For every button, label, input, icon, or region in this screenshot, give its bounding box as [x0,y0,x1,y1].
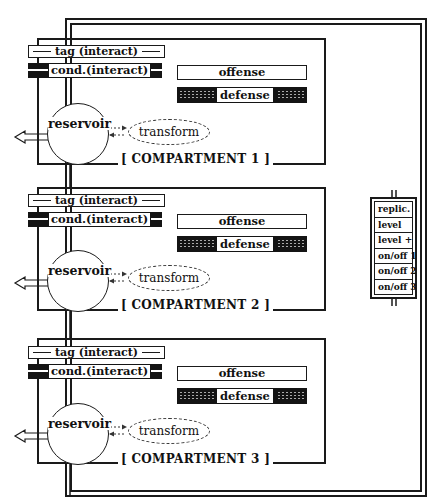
defense-label: defense [217,389,273,403]
defense-label: defense [217,88,273,102]
panel-item-onoff-3[interactable]: on/off 3 [375,280,412,296]
cond-label: cond.(interact) [48,212,151,227]
compartment-title: [ COMPARTMENT 2 ] [118,298,273,312]
reservoir-circle[interactable] [47,403,109,465]
offense-box[interactable]: offense [177,214,307,229]
reservoir-label: reservoir [48,264,111,277]
reservoir-circle[interactable] [47,250,109,312]
panel-item-level[interactable]: level [375,218,412,234]
cond-label: cond.(interact) [48,63,151,78]
tag-interact-bar[interactable]: tag (interact) [28,45,165,58]
compartment-title: [ COMPARTMENT 1 ] [118,152,273,166]
defense-bar[interactable]: defense [177,236,307,252]
cond-label: cond.(interact) [48,364,151,379]
cond-interact-bar[interactable]: cond.(interact) [28,212,162,227]
control-panel: replic. level level + on/off 1 on/off 2 … [370,197,417,299]
defense-bar[interactable]: defense [177,87,307,103]
panel-item-replic[interactable]: replic. [375,202,412,218]
tag-label: tag (interact) [55,195,138,206]
offense-box[interactable]: offense [177,65,307,80]
transform-ellipse[interactable]: transform [128,119,210,145]
transform-ellipse[interactable]: transform [128,418,210,444]
defense-bar[interactable]: defense [177,388,307,404]
tag-interact-bar[interactable]: tag (interact) [28,194,165,207]
cond-interact-bar[interactable]: cond.(interact) [28,63,162,78]
tag-interact-bar[interactable]: tag (interact) [28,346,165,359]
reservoir-label: reservoir [48,417,111,430]
compartment-title: [ COMPARTMENT 3 ] [118,452,273,466]
reservoir-label: reservoir [48,117,111,130]
transform-ellipse[interactable]: transform [128,265,210,291]
tag-label: tag (interact) [55,347,138,358]
cond-interact-bar[interactable]: cond.(interact) [28,364,162,379]
tag-label: tag (interact) [55,46,138,57]
reservoir-circle[interactable] [47,103,109,165]
defense-label: defense [217,237,273,251]
panel-item-onoff-1[interactable]: on/off 1 [375,249,412,265]
offense-box[interactable]: offense [177,366,307,381]
panel-item-level-plus[interactable]: level + [375,233,412,249]
panel-item-onoff-2[interactable]: on/off 2 [375,264,412,280]
